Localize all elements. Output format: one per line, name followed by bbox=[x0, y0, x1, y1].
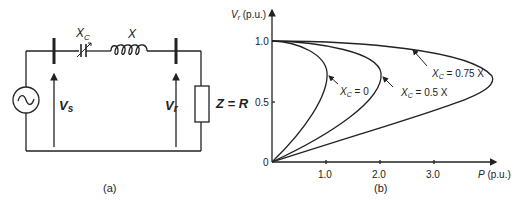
caption-b: (b) bbox=[374, 182, 387, 194]
curve-xc-0-75x bbox=[272, 41, 493, 162]
y-tick-label-0: 0 bbox=[263, 157, 269, 168]
load-label: Z = R bbox=[215, 96, 249, 111]
caption-a: (a) bbox=[103, 182, 116, 194]
source-voltage-label: Vs bbox=[59, 98, 74, 114]
curve-label-xc-0-5x: XC = 0.5 X bbox=[400, 87, 448, 99]
x-tick-label-1: 1.0 bbox=[318, 169, 332, 180]
annot-arrow-xc0 bbox=[329, 76, 338, 84]
curve-label-xc-0-75x: XC = 0.75 X bbox=[431, 68, 484, 80]
curve-xc-0-5x bbox=[272, 41, 381, 162]
variable-capacitor-icon bbox=[77, 43, 91, 57]
x-tick-label-2: 2.0 bbox=[372, 169, 386, 180]
annot-arrow-xc075 bbox=[413, 50, 427, 66]
circuit-diagram bbox=[13, 38, 209, 151]
pv-chart bbox=[272, 10, 496, 164]
y-tick-label-1: 1.0 bbox=[255, 36, 269, 47]
y-axis-label: Vr (p.u.) bbox=[231, 9, 266, 21]
inductor-label: X bbox=[127, 27, 137, 41]
curve-label-xc-0: XC = 0 bbox=[339, 86, 369, 98]
load-impedance-icon bbox=[195, 86, 209, 122]
sine-wave-icon bbox=[18, 96, 34, 105]
curve-xc-0 bbox=[272, 41, 327, 162]
y-tick-label-05: 0.5 bbox=[255, 97, 269, 108]
figure: XC X Vs Vr Z = R (a) Vr (p.u.) 1.0 0.5 0… bbox=[0, 0, 524, 204]
x-tick-label-3: 3.0 bbox=[426, 169, 440, 180]
x-axis-label: P (p.u.) bbox=[478, 169, 511, 180]
inductor-icon bbox=[111, 45, 147, 55]
annot-arrow-xc05 bbox=[383, 77, 393, 87]
capacitor-label: XC bbox=[75, 26, 90, 42]
